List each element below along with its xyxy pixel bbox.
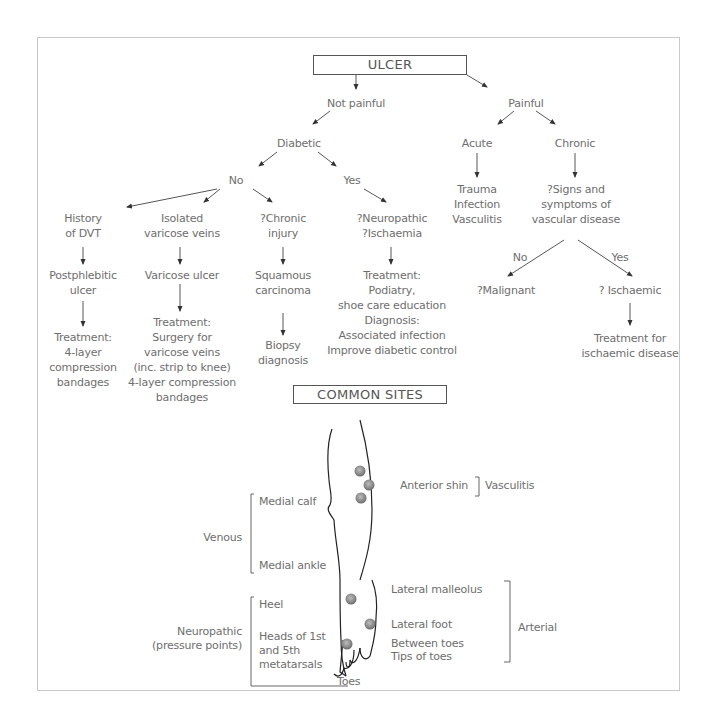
dot-lateral-foot <box>365 619 376 630</box>
node-varicose-treatment: Treatment: Surgery for varicose veins (i… <box>128 315 236 405</box>
text-line: History <box>64 211 102 226</box>
text-line: bandages <box>49 375 117 390</box>
site-between-toes: Between toes <box>391 637 464 650</box>
site-toes: Toes <box>337 674 360 689</box>
text-line: Treatment for <box>581 331 678 346</box>
text-line: Postphlebitic <box>49 268 117 283</box>
text-line: ?Signs and <box>532 182 620 197</box>
text-line: 4-layer compression <box>128 375 236 390</box>
arrow-diabetic-no <box>259 152 277 166</box>
site-lateral-foot: Lateral foot <box>391 617 452 632</box>
site-toes-group: Between toes Tips of toes <box>391 637 464 663</box>
text-line: Squamous <box>255 268 311 283</box>
label-vascular-no: No <box>513 250 528 265</box>
node-ischaemic: ? Ischaemic <box>599 283 661 298</box>
ulcer-site-dots <box>342 466 376 650</box>
category-venous: Venous <box>203 530 242 545</box>
text-line: metatarsals <box>259 658 326 672</box>
node-postphlebitic: Postphlebitic ulcer <box>49 268 117 298</box>
text-line: bandages <box>128 390 236 405</box>
node-biopsy-diagnosis: Biopsy diagnosis <box>258 338 308 368</box>
arrow-no-dvt <box>127 189 217 207</box>
bracket-arterial <box>504 581 510 662</box>
text-line: Heads of 1st <box>259 630 326 644</box>
ulcer-title-box: ULCER <box>313 55 467 75</box>
node-vascular-question: ?Signs and symptoms of vascular disease <box>532 182 620 227</box>
node-acute: Acute <box>462 136 492 151</box>
arrow-notpainful-diabetic <box>313 111 330 124</box>
node-chronic-injury: ?Chronic injury <box>260 211 306 241</box>
site-lateral-malleolus: Lateral malleolus <box>391 582 482 597</box>
text-line: shoe care education <box>327 298 457 313</box>
common-sites-title-box: COMMON SITES <box>293 385 447 404</box>
dot-shin-2 <box>364 480 375 491</box>
text-line: symptoms of <box>532 197 620 212</box>
bracket-venous <box>251 494 254 573</box>
site-tips-of-toes: Tips of toes <box>391 650 464 663</box>
text-line: ischaemic disease <box>581 346 678 361</box>
leg-outline <box>328 420 377 676</box>
node-not-painful: Not painful <box>327 96 385 111</box>
text-line: Podiatry, <box>327 283 457 298</box>
acute-cause: Infection <box>452 197 501 212</box>
node-diabetic: Diabetic <box>277 136 321 151</box>
node-painful: Painful <box>508 96 543 111</box>
arrow-painful-chronic <box>536 111 555 124</box>
text-line: ?Ischaemia <box>357 226 428 241</box>
text-line: Treatment: <box>327 268 457 283</box>
bracket-vasculitis <box>475 477 479 496</box>
text-line: ?Neuropathic <box>357 211 428 226</box>
text-line: Biopsy <box>258 338 308 353</box>
node-chronic: Chronic <box>555 136 595 151</box>
text-line: vascular disease <box>532 212 620 227</box>
node-dvt-treatment: Treatment: 4-layer compression bandages <box>49 330 117 390</box>
node-malignant: ?Malignant <box>477 283 535 298</box>
node-ischaemic-treatment: Treatment for ischaemic disease <box>581 331 678 361</box>
dot-metatarsal <box>342 639 353 650</box>
acute-cause: Vasculitis <box>452 212 501 227</box>
text-line: (inc. strip to knee) <box>128 360 236 375</box>
text-line: Diagnosis: <box>327 313 457 328</box>
text-line: Neuropathic <box>152 625 242 639</box>
text-line: 4-layer <box>49 345 117 360</box>
text-line: Treatment: <box>49 330 117 345</box>
text-line: carcinoma <box>255 283 311 298</box>
text-line: injury <box>260 226 306 241</box>
text-line: of DVT <box>64 226 102 241</box>
node-diabetic-treatment: Treatment: Podiatry, shoe care education… <box>327 268 457 358</box>
site-metatarsal-heads: Heads of 1st and 5th metatarsals <box>259 630 326 672</box>
arrow-no-injury <box>253 189 272 202</box>
category-vasculitis: Vasculitis <box>485 478 534 493</box>
site-medial-ankle: Medial ankle <box>259 558 326 573</box>
arrow-yes-neuropathic <box>364 189 386 202</box>
text-line: varicose veins <box>144 226 220 241</box>
node-isolated-varicose: Isolated varicose veins <box>144 211 220 241</box>
text-line: compression <box>49 360 117 375</box>
node-squamous-carcinoma: Squamous carcinoma <box>255 268 311 298</box>
label-vascular-yes: Yes <box>611 250 628 265</box>
text-line: Associated infection <box>327 328 457 343</box>
acute-cause: Trauma <box>452 182 501 197</box>
text-line: varicose veins <box>128 345 236 360</box>
node-history-dvt: History of DVT <box>64 211 102 241</box>
site-heel: Heel <box>259 597 283 612</box>
dot-heel <box>346 594 357 605</box>
text-line: (pressure points) <box>152 639 242 653</box>
text-line: Varicose ulcer <box>145 268 219 283</box>
arrow-ulcer-painful <box>467 75 487 87</box>
text-line: ?Chronic <box>260 211 306 226</box>
text-line: diagnosis <box>258 353 308 368</box>
arrow-painful-acute <box>498 111 514 124</box>
text-line: ulcer <box>49 283 117 298</box>
site-anterior-shin: Anterior shin <box>400 478 468 493</box>
node-yes: Yes <box>343 173 360 188</box>
text-line: Improve diabetic control <box>327 343 457 358</box>
node-neuropathic-ischaemia: ?Neuropathic ?Ischaemia <box>357 211 428 241</box>
text-line: and 5th <box>259 644 326 658</box>
node-acute-causes: Trauma Infection Vasculitis <box>452 182 501 227</box>
text-line: Isolated <box>144 211 220 226</box>
text-line: Treatment: <box>128 315 236 330</box>
arrow-diabetic-yes <box>318 152 336 166</box>
category-arterial: Arterial <box>518 620 557 635</box>
site-medial-calf: Medial calf <box>259 494 316 509</box>
